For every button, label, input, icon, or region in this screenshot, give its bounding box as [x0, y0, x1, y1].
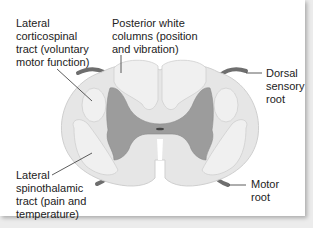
label-lateral-spinothalamic-tract: Lateral spinothalamic tract (pain and te… — [16, 169, 86, 221]
label-dorsal-sensory-root: Dorsal sensory root — [266, 67, 305, 106]
central-canal — [156, 128, 164, 131]
anterior-median-fissure — [157, 139, 163, 160]
label-motor-root: Motor root — [251, 178, 279, 204]
label-lateral-corticospinal-tract: Lateral corticospinal tract (voluntary m… — [16, 17, 89, 69]
label-posterior-white-columns: Posterior white columns (position and vi… — [112, 17, 198, 56]
left-corticospinal-tract — [82, 88, 106, 122]
